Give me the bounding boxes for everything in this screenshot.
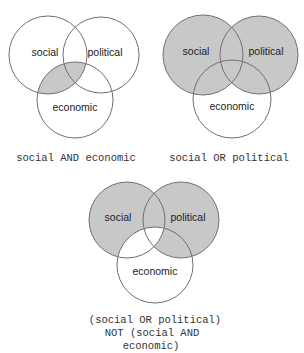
caption-line-1: (social OR political) bbox=[89, 314, 221, 326]
label-social: social bbox=[32, 46, 59, 58]
label-political: political bbox=[87, 46, 122, 58]
label-political: political bbox=[170, 211, 205, 223]
label-social: social bbox=[183, 45, 210, 57]
label-economic: economic bbox=[53, 101, 98, 113]
venn-diagram-social-and-economic: social political economic social AND eco… bbox=[9, 16, 139, 164]
venn-diagram-or-not-and: social political economic (social OR pol… bbox=[0, 170, 304, 352]
caption-social-and-economic: social AND economic bbox=[16, 152, 136, 164]
label-social: social bbox=[105, 211, 132, 223]
caption-line-2: NOT (social AND bbox=[105, 327, 200, 339]
label-economic: economic bbox=[133, 265, 178, 277]
caption-line-3: economic) bbox=[123, 340, 180, 352]
label-political: political bbox=[248, 45, 283, 57]
venn-figure: social political economic social AND eco… bbox=[0, 0, 304, 353]
label-economic: economic bbox=[210, 100, 255, 112]
circle-economic bbox=[193, 60, 271, 138]
venn-diagram-social-or-political: social political economic social OR poli… bbox=[163, 15, 298, 164]
caption-social-or-political: social OR political bbox=[169, 152, 289, 164]
